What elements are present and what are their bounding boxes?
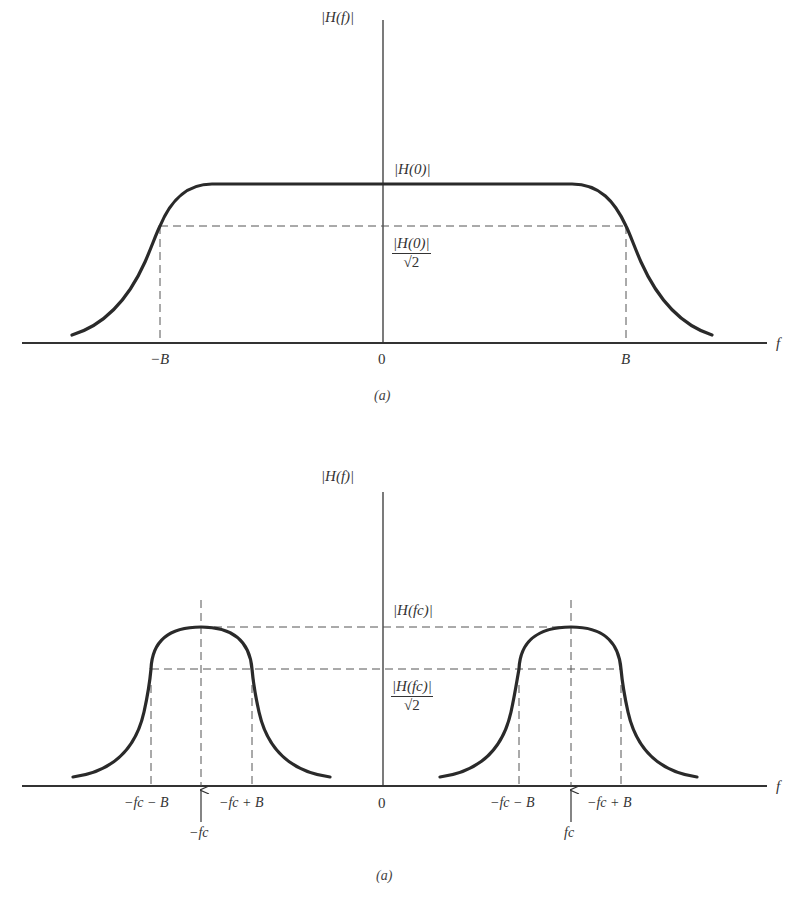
top-tick-zero: 0 [378, 352, 386, 367]
top-halfpower-label: |H(0)| √2 [392, 236, 431, 271]
top-x-axis-label: f [776, 336, 780, 351]
top-halfpower-numerator: |H(0)| [392, 236, 431, 254]
top-caption: (a) [374, 388, 390, 404]
bottom-panel [22, 492, 767, 822]
bottom-halfpower-label: |H(fc)| √2 [391, 679, 433, 714]
bottom-arrow-left-label: −fc [189, 826, 209, 840]
bottom-tick-left-high: −fc + B [219, 796, 264, 810]
bottom-tick-left-low: −fc − B [124, 796, 169, 810]
bottom-halfpower-numerator: |H(fc)| [391, 679, 433, 697]
bottom-halfpower-denominator: √2 [391, 697, 433, 714]
top-halfpower-denominator: √2 [392, 254, 431, 271]
top-y-axis-label: |H(f)| [321, 10, 354, 25]
top-peak-label: |H(0)| [394, 162, 431, 177]
bottom-arrow-right-label: fc [564, 826, 574, 840]
bottom-y-axis-label: |H(f)| [321, 469, 354, 484]
bottom-caption: (a) [376, 868, 392, 884]
bottom-x-axis-label: f [776, 779, 780, 794]
top-tick-minus-b: −B [150, 352, 169, 367]
bottom-tick-right-low: −fc − B [490, 796, 535, 810]
filter-response-figure [0, 0, 803, 907]
top-tick-b: B [621, 352, 630, 367]
bottom-tick-right-high: −fc + B [587, 796, 632, 810]
top-panel [22, 20, 767, 343]
bottom-right-band-curve [440, 627, 697, 777]
bottom-tick-zero: 0 [378, 796, 386, 811]
bottom-peak-label: |H(fc)| [393, 603, 433, 618]
bottom-left-band-curve [73, 627, 330, 777]
